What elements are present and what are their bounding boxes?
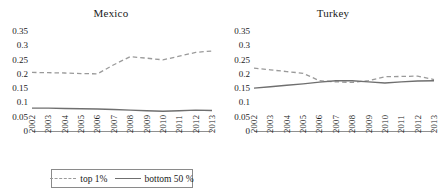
x-tick-label: 2012 bbox=[191, 115, 200, 133]
series-line-top-1- bbox=[32, 51, 212, 74]
x-tick-label: 2009 bbox=[142, 115, 151, 133]
x-tick-label: 2007 bbox=[110, 115, 119, 133]
solid-line-icon bbox=[115, 178, 141, 179]
chart-title-mexico: Mexico bbox=[0, 7, 222, 19]
y-tick-label: 0.15 bbox=[234, 84, 250, 93]
x-axis-labels-turkey: 2002200320042005200620072008200920102011… bbox=[254, 133, 434, 163]
y-tick-label: 0.1 bbox=[17, 98, 28, 107]
y-tick-label: 0.3 bbox=[239, 41, 250, 50]
y-tick-label: 0.3 bbox=[17, 41, 28, 50]
legend-item-top1-mexico: top 1% bbox=[50, 174, 107, 184]
figure-root: Mexico 00.050.10.150.20.250.30.35 200220… bbox=[0, 0, 444, 196]
legend-mexico: top 1% bottom 50 % bbox=[51, 169, 193, 188]
legend-label-top1-mexico: top 1% bbox=[80, 174, 107, 184]
x-tick-label: 2004 bbox=[60, 115, 69, 133]
x-tick-label: 2005 bbox=[77, 115, 86, 133]
x-tick-label: 2009 bbox=[364, 115, 373, 133]
x-tick-label: 2003 bbox=[44, 115, 53, 133]
y-tick-label: 0.25 bbox=[234, 55, 250, 64]
y-tick-label: 0.35 bbox=[234, 27, 250, 36]
x-tick-label: 2005 bbox=[299, 115, 308, 133]
x-axis-labels-mexico: 2002200320042005200620072008200920102011… bbox=[32, 133, 212, 163]
x-tick-label: 2010 bbox=[381, 115, 390, 133]
chart-panel-mexico: Mexico 00.050.10.150.20.250.30.35 200220… bbox=[0, 0, 222, 196]
x-tick-label: 2012 bbox=[413, 115, 422, 133]
series-line-bottom-50- bbox=[32, 108, 212, 111]
x-tick-label: 2004 bbox=[282, 115, 291, 133]
y-tick-label: 0.05 bbox=[234, 112, 250, 121]
x-tick-label: 2011 bbox=[175, 115, 184, 133]
y-tick-label: 0.1 bbox=[239, 98, 250, 107]
y-tick-label: 0.15 bbox=[12, 84, 28, 93]
x-tick-label: 2003 bbox=[266, 115, 275, 133]
chart-panel-turkey: Turkey 00.050.10.150.20.250.30.35 200220… bbox=[222, 0, 444, 196]
legend-label-bottom50-mexico: bottom 50 % bbox=[145, 174, 194, 184]
legend-item-bottom50-mexico: bottom 50 % bbox=[115, 174, 194, 184]
y-tick-label: 0.2 bbox=[239, 69, 250, 78]
x-tick-label: 2002 bbox=[28, 115, 37, 133]
x-tick-label: 2008 bbox=[348, 115, 357, 133]
x-tick-label: 2006 bbox=[315, 115, 324, 133]
x-tick-label: 2006 bbox=[93, 115, 102, 133]
dashed-line-icon bbox=[50, 178, 76, 179]
y-tick-label: 0.35 bbox=[12, 27, 28, 36]
x-tick-label: 2013 bbox=[430, 115, 439, 133]
x-tick-label: 2008 bbox=[126, 115, 135, 133]
y-tick-label: 0.05 bbox=[12, 112, 28, 121]
y-tick-label: 0.25 bbox=[12, 55, 28, 64]
y-tick-label: 0.2 bbox=[17, 69, 28, 78]
x-tick-label: 2007 bbox=[332, 115, 341, 133]
x-tick-label: 2011 bbox=[397, 115, 406, 133]
chart-title-turkey: Turkey bbox=[222, 7, 444, 19]
x-tick-label: 2010 bbox=[159, 115, 168, 133]
x-tick-label: 2002 bbox=[250, 115, 259, 133]
x-tick-label: 2013 bbox=[208, 115, 217, 133]
